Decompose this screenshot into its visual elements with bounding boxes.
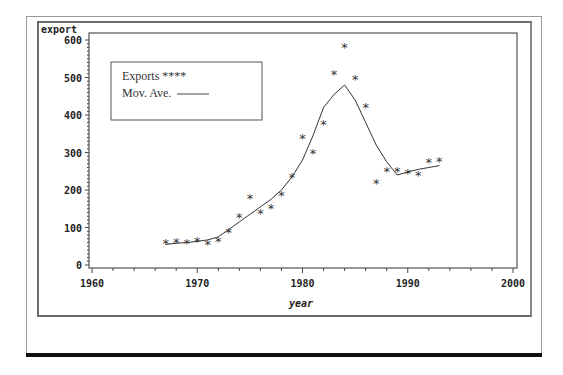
y-tick-label: 500 [64,73,82,84]
legend-exports: Exports **** [122,69,186,83]
y-tick-label: 200 [64,185,82,196]
x-tick-label: 2000 [501,278,525,289]
data-point: * [394,164,401,179]
data-point: * [162,236,169,251]
chart-canvas: 010020030040050060019601970198019902000 … [0,0,563,375]
data-point: * [173,235,180,250]
y-tick-label: 100 [64,223,82,234]
legend-movave: Mov. Ave. [122,86,171,100]
legend: Exports **** Mov. Ave. [111,62,262,120]
data-point: * [268,201,275,216]
data-point: * [183,236,190,251]
data-point: * [405,166,412,181]
data-point: * [215,234,222,249]
data-point: * [194,234,201,249]
data-point: * [320,117,327,132]
x-tick-label: 1980 [290,278,314,289]
data-point: * [341,40,348,55]
data-point: * [426,155,433,170]
data-point: * [247,191,254,206]
y-tick-label: 600 [64,35,82,46]
data-point: * [236,210,243,225]
data-point: * [373,176,380,191]
data-point: * [226,225,233,240]
x-tick-label: 1970 [185,278,209,289]
data-point: * [299,131,306,146]
data-point: * [257,206,264,221]
data-point: * [278,188,285,203]
data-point: * [289,170,296,185]
x-tick-label: 1960 [80,278,104,289]
data-point: * [415,168,422,183]
data-point: * [331,67,338,82]
x-tick-label: 1990 [396,278,420,289]
data-point: * [205,237,212,252]
data-point: * [310,146,317,161]
x-axis-title: year [288,298,313,309]
y-tick-label: 0 [76,260,82,271]
data-point: * [383,164,390,179]
data-point: * [362,100,369,115]
y-tick-label: 400 [64,110,82,121]
y-tick-label: 300 [64,148,82,159]
data-point: * [436,154,443,169]
data-point: * [352,72,359,87]
y-axis-title: export [41,24,77,35]
